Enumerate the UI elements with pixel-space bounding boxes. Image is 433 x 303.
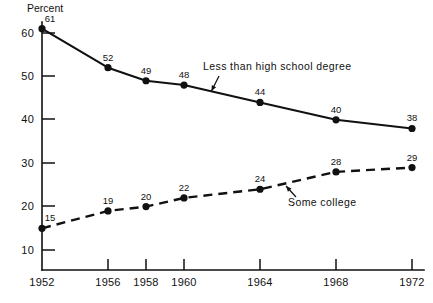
- y-tick-label-30: 30: [21, 157, 34, 169]
- data-point-1-3: [180, 194, 187, 201]
- x-tick-label-1972: 1972: [399, 276, 424, 288]
- y-tick-label-10: 10: [21, 244, 34, 256]
- y-tick-label-20: 20: [21, 200, 34, 212]
- data-point-label-0-6: 38: [407, 112, 418, 123]
- y-tick-label-40: 40: [21, 113, 34, 125]
- data-point-1-2: [142, 203, 149, 210]
- data-point-label-0-5: 40: [331, 104, 342, 115]
- series-annotation-1: Some college: [288, 196, 356, 208]
- y-tick-label-60: 60: [21, 27, 34, 39]
- x-tick-label-1964: 1964: [247, 276, 272, 288]
- series-layer: 6152494844403815192022242829: [38, 13, 417, 232]
- data-point-label-1-2: 20: [141, 191, 152, 202]
- x-tick-label-1968: 1968: [323, 276, 348, 288]
- data-point-0-6: [408, 125, 415, 132]
- data-point-label-1-4: 24: [255, 173, 266, 184]
- series-line-1: [42, 168, 412, 229]
- data-point-0-0: [38, 25, 45, 32]
- series-annotation-0: Less than high school degree: [203, 60, 351, 72]
- x-tick-label-1960: 1960: [171, 276, 196, 288]
- data-point-1-0: [38, 225, 45, 232]
- x-tick-group: 1952195619581960196419681972: [29, 259, 424, 288]
- data-point-1-1: [104, 207, 111, 214]
- x-axis-group: 1952195619581960196419681972: [29, 259, 424, 288]
- data-point-0-2: [142, 77, 149, 84]
- data-point-label-0-1: 52: [103, 52, 114, 63]
- data-point-label-1-6: 29: [407, 152, 418, 163]
- data-point-1-6: [408, 164, 415, 171]
- data-point-label-1-0: 15: [45, 212, 56, 223]
- data-point-1-5: [332, 168, 339, 175]
- y-axis-group: 605040302010: [21, 22, 55, 270]
- data-point-0-1: [104, 64, 111, 71]
- data-point-0-4: [256, 99, 263, 106]
- data-point-label-1-1: 19: [103, 195, 114, 206]
- data-point-label-0-4: 44: [255, 86, 266, 97]
- data-point-label-1-5: 28: [331, 156, 342, 167]
- data-point-label-0-2: 49: [141, 65, 152, 76]
- data-point-0-5: [332, 116, 339, 123]
- data-point-label-1-3: 22: [179, 182, 190, 193]
- data-point-label-0-0: 61: [45, 13, 56, 24]
- x-tick-label-1958: 1958: [133, 276, 158, 288]
- chart-figure: 605040302010 195219561958196019641968197…: [0, 0, 433, 303]
- line-chart: 605040302010 195219561958196019641968197…: [0, 0, 433, 303]
- series-line-0: [42, 29, 412, 129]
- x-tick-label-1956: 1956: [95, 276, 120, 288]
- data-point-1-4: [256, 186, 263, 193]
- data-point-label-0-3: 48: [179, 69, 190, 80]
- y-tick-label-50: 50: [21, 70, 34, 82]
- x-tick-label-1952: 1952: [29, 276, 54, 288]
- data-point-0-3: [180, 81, 187, 88]
